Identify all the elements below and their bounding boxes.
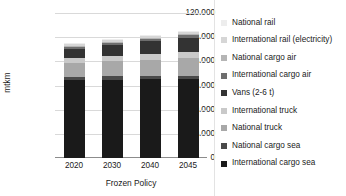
legend-label: National cargo sea (232, 142, 300, 150)
bar-segment (140, 60, 161, 76)
x-tick-label: 2040 (131, 161, 169, 170)
legend-label: National truck (232, 124, 282, 132)
legend-label: Vans (2-6 t) (232, 89, 274, 97)
legend-swatch-icon (221, 143, 227, 149)
bar-segment (102, 80, 123, 158)
legend-swatch-icon (221, 20, 227, 26)
bar-segment (178, 38, 199, 52)
bar-segment (64, 80, 85, 158)
bar-slot (169, 13, 207, 158)
legend-swatch-icon (221, 90, 227, 96)
bar-segment (178, 79, 199, 158)
stacked-bar[interactable] (64, 43, 85, 158)
x-tick-label: 2045 (169, 161, 207, 170)
bar-slot (131, 13, 169, 158)
bar-series-group (55, 13, 207, 158)
bar-segment (140, 41, 161, 53)
legend-item[interactable]: International cargo sea (221, 155, 346, 173)
legend-swatch-icon (221, 161, 227, 167)
legend-label: International cargo air (232, 71, 311, 79)
chart-root: mtkm 020.00040.00060.00080.000100.000120… (0, 0, 346, 196)
bar-segment (64, 63, 85, 77)
bar-slot (55, 13, 93, 158)
legend-label: International rail (electricity) (232, 36, 332, 44)
legend-swatch-icon (221, 73, 227, 79)
legend-item[interactable]: International cargo air (221, 67, 346, 85)
legend-item[interactable]: International truck (221, 102, 346, 120)
legend-swatch-icon (221, 37, 227, 43)
bar-slot (93, 13, 131, 158)
bar-segment (102, 61, 123, 76)
legend-item[interactable]: National truck (221, 120, 346, 138)
legend-item[interactable]: International rail (electricity) (221, 32, 346, 50)
legend-label: National cargo air (232, 54, 296, 62)
plot-grid (55, 13, 207, 158)
chart-legend: National railInternational rail (electri… (221, 14, 346, 172)
legend-label: National rail (232, 19, 275, 27)
legend-label: International truck (232, 107, 297, 115)
stacked-bar[interactable] (178, 31, 199, 158)
legend-swatch-icon (221, 55, 227, 61)
panel-divider (214, 0, 215, 196)
legend-swatch-icon (221, 108, 227, 114)
y-axis-title: mtkm (3, 57, 12, 109)
legend-swatch-icon (221, 125, 227, 131)
stacked-bar[interactable] (102, 39, 123, 158)
legend-item[interactable]: National rail (221, 14, 346, 32)
x-axis-title: Frozen Policy (55, 178, 207, 188)
x-tick-label: 2030 (93, 161, 131, 170)
legend-item[interactable]: National cargo sea (221, 137, 346, 155)
bar-segment (178, 58, 199, 76)
bar-segment (64, 49, 85, 58)
bar-segment (102, 45, 123, 56)
stacked-bar[interactable] (140, 35, 161, 158)
plot-area: mtkm 020.00040.00060.00080.000100.000120… (0, 0, 215, 196)
legend-item[interactable]: Vans (2-6 t) (221, 84, 346, 102)
legend-label: International cargo sea (232, 159, 315, 167)
bar-segment (140, 79, 161, 158)
legend-item[interactable]: National cargo air (221, 49, 346, 67)
x-tick-label: 2020 (55, 161, 93, 170)
